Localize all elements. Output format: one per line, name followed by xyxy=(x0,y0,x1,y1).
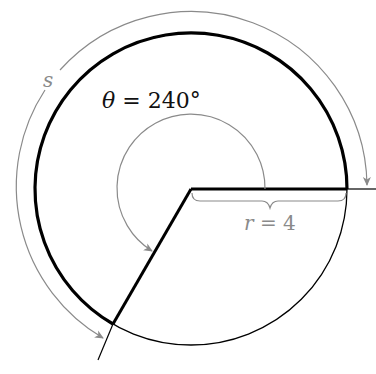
arc-length-label: s xyxy=(43,68,53,92)
terminal-side-extension xyxy=(98,324,113,360)
radius-symbol: r xyxy=(244,211,254,235)
angle-value: = 240° xyxy=(115,88,200,113)
radius-label: r = 4 xyxy=(244,211,296,235)
diagram-svg xyxy=(0,0,376,374)
intercepted-arc xyxy=(35,33,347,324)
theta-symbol: θ xyxy=(102,88,115,113)
diagram-canvas: θ = 240° r = 4 s xyxy=(0,0,376,374)
terminal-side xyxy=(113,189,191,324)
angle-arc xyxy=(117,114,265,251)
radius-value: = 4 xyxy=(254,211,296,235)
angle-label: θ = 240° xyxy=(102,88,201,113)
radius-brace xyxy=(192,193,346,208)
arc-length-indicator-left xyxy=(16,90,103,338)
